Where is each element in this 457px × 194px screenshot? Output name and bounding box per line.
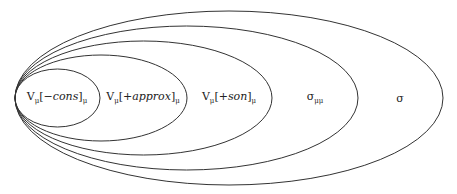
- label-base: V: [106, 90, 114, 103]
- euler-diagram: Vμ[−cons]μ Vμ[+approx]μ Vμ[+son]μ σμμ σ: [0, 0, 457, 194]
- label-subscript: μ: [252, 97, 257, 105]
- label-feature: +son: [219, 90, 248, 103]
- label-plus-son: Vμ[+son]μ: [202, 91, 256, 105]
- label-subscript: μμ: [314, 97, 323, 105]
- label-feature: −cons: [44, 90, 79, 103]
- label-sigma: σ: [396, 93, 404, 104]
- label-base: σ: [307, 90, 315, 103]
- label-subscript: μ: [83, 97, 88, 105]
- label-base: V: [202, 90, 210, 103]
- label-base: σ: [396, 92, 404, 105]
- label-minus-cons: Vμ[−cons]μ: [27, 91, 87, 105]
- label-feature: +approx: [123, 90, 171, 103]
- label-base: V: [27, 90, 35, 103]
- label-sigma-mumu: σμμ: [307, 91, 324, 105]
- label-subscript: μ: [175, 97, 180, 105]
- label-plus-approx: Vμ[+approx]μ: [106, 91, 180, 105]
